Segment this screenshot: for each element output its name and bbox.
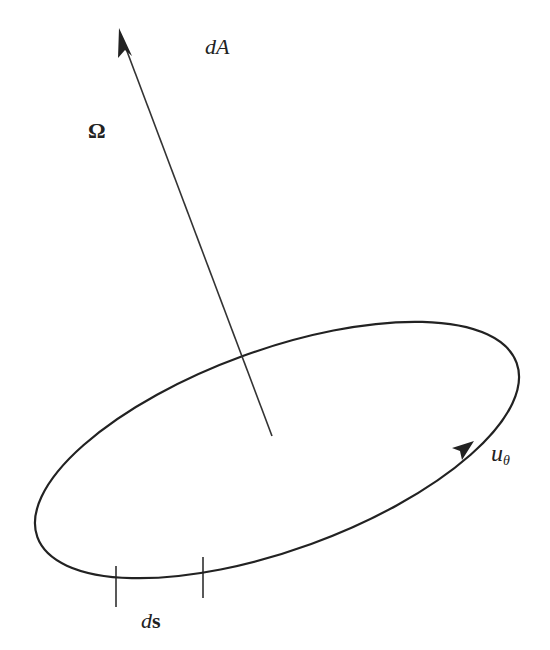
line-element-s: s <box>152 608 161 633</box>
line-element-label: ds <box>141 610 161 632</box>
omega-label: Ω <box>88 120 106 142</box>
tangent-unit-vector-label: uθ <box>491 441 510 465</box>
normal-vector-arrowhead-icon <box>118 28 132 58</box>
line-element-d: d <box>141 608 152 633</box>
loop-diagram <box>0 0 550 650</box>
normal-vector-shaft <box>122 38 272 436</box>
area-element-label: dA <box>205 36 229 58</box>
tangent-label-subscript: θ <box>503 453 510 468</box>
tangent-label-base: u <box>491 440 503 466</box>
tangent-arrowhead-icon <box>452 441 474 460</box>
